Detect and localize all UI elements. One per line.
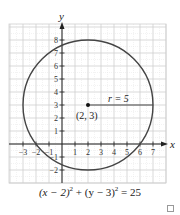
svg-text:1: 1: [54, 127, 58, 136]
svg-text:2: 2: [86, 148, 90, 157]
equation-caption: (x − 2)2 + (y − 3)2 = 25: [0, 185, 180, 198]
axes: [9, 22, 168, 183]
eq-part-b: + (y − 3): [73, 186, 115, 198]
svg-text:6: 6: [138, 148, 142, 157]
svg-text:3: 3: [54, 101, 58, 110]
svg-text:2: 2: [54, 114, 58, 123]
radius-label: r = 5: [108, 93, 129, 104]
svg-text:−2: −2: [32, 148, 41, 157]
svg-text:5: 5: [54, 75, 58, 84]
svg-text:8: 8: [54, 36, 58, 45]
circle-graph: −3−2−11234567−2−112345678 r = 5 (2, 3) x…: [0, 0, 180, 215]
svg-text:−3: −3: [19, 148, 28, 157]
expand-icon[interactable]: [167, 205, 174, 212]
eq-part-a: (x − 2): [39, 186, 70, 198]
svg-text:7: 7: [54, 49, 58, 58]
center-point: [86, 103, 90, 107]
x-axis-label: x: [169, 138, 175, 150]
svg-text:7: 7: [151, 148, 155, 157]
svg-text:4: 4: [54, 88, 58, 97]
y-axis-label: y: [58, 10, 64, 22]
svg-text:1: 1: [73, 148, 77, 157]
eq-part-c: = 25: [118, 186, 141, 198]
center-label: (2, 3): [76, 110, 98, 122]
svg-text:6: 6: [54, 62, 58, 71]
svg-text:4: 4: [112, 148, 116, 157]
svg-text:3: 3: [99, 148, 103, 157]
svg-text:−2: −2: [49, 166, 58, 175]
